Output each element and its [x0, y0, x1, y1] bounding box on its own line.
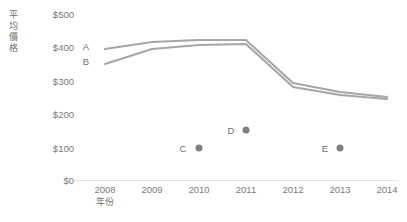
x-tick-2013: 2013	[329, 184, 350, 195]
series-label-a: A	[83, 41, 89, 52]
x-tick-2009: 2009	[141, 184, 162, 195]
price-by-year-line-chart: 平均價格 $500 $400 $300 $200 $100 $0 A B C D…	[0, 0, 407, 222]
x-tick-2011: 2011	[236, 184, 256, 195]
series-label-b: B	[83, 56, 89, 67]
series-b-line	[105, 44, 387, 99]
data-point-d-label: D	[228, 125, 235, 136]
data-point-e-marker	[337, 145, 344, 152]
x-tick-2008: 2008	[94, 184, 115, 195]
x-axis-title: 年份	[96, 195, 114, 208]
data-point-c-label: C	[180, 143, 187, 154]
data-point-d-marker	[243, 127, 250, 134]
x-tick-2014: 2014	[376, 184, 397, 195]
x-tick-2012: 2012	[282, 184, 303, 195]
series-a-line	[105, 40, 387, 97]
data-point-c-marker	[196, 145, 203, 152]
data-point-e-label: E	[322, 143, 328, 154]
x-tick-2010: 2010	[188, 184, 209, 195]
